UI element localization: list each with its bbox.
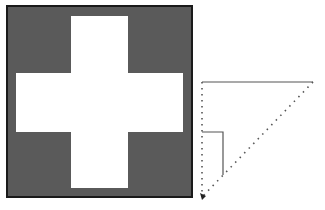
cross-figure [7,6,192,197]
arrowhead-icon [200,193,206,200]
diagram-canvas [0,0,325,210]
inner-right-angle-marker [202,132,223,175]
triangle-figure [200,82,313,200]
triangle-hypotenuse [202,82,313,197]
cross-horizontal-bar [16,73,183,132]
